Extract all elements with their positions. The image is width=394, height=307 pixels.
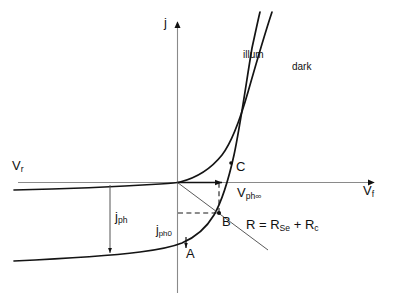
photocurrent-zero-subscript: ph0 bbox=[159, 229, 172, 238]
photovoltage-subscript: ph∞ bbox=[246, 191, 262, 201]
forward-voltage-subscript: f bbox=[372, 189, 374, 199]
photovoltage-label: Vph∞ bbox=[237, 186, 261, 200]
vertical-axis-label: j bbox=[164, 16, 167, 29]
photocurrent-subscript: ph bbox=[118, 215, 128, 225]
reverse-voltage-subscript: r bbox=[21, 164, 24, 174]
dark-curve bbox=[14, 12, 272, 190]
forward-voltage-axis-label: Vf bbox=[363, 184, 374, 198]
point-b-label: B bbox=[222, 215, 231, 228]
equation-equals: = bbox=[255, 217, 270, 232]
diagram-canvas bbox=[0, 0, 394, 307]
point-a-label: A bbox=[186, 247, 195, 260]
point-b-marker bbox=[217, 211, 221, 215]
reverse-voltage-axis-label: Vr bbox=[12, 159, 24, 173]
equation-plus: + bbox=[290, 217, 305, 232]
jv-characteristic-figure: j Vr Vf illum dark A B C jph jph0 Vph∞ R… bbox=[0, 0, 394, 307]
contact-resistance-subscript: c bbox=[314, 223, 318, 233]
point-c-marker bbox=[229, 161, 233, 165]
photocurrent-zero-label: jph0 bbox=[156, 224, 172, 238]
point-c-label: C bbox=[236, 160, 245, 173]
illuminated-curve-label: illum bbox=[243, 50, 264, 60]
photocurrent-label: jph bbox=[115, 210, 127, 224]
dark-curve-label: dark bbox=[292, 62, 311, 72]
series-resistance-subscript: Se bbox=[280, 223, 291, 233]
resistance-equation-label: R = RSe + Rc bbox=[246, 218, 319, 232]
